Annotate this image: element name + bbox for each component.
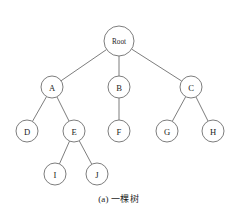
- node-label-a: A: [49, 83, 56, 93]
- tree-node-g[interactable]: G: [156, 120, 178, 142]
- node-label-i: I: [54, 170, 57, 180]
- tree-edge-root-a: [61, 49, 107, 80]
- node-label-f: F: [117, 127, 122, 137]
- tree-node-a[interactable]: A: [41, 76, 63, 98]
- tree-figure: RootABCDEFGHIJ (a) 一棵树: [0, 0, 237, 214]
- tree-edge-c-h: [196, 97, 208, 121]
- node-label-g: G: [164, 127, 170, 137]
- tree-node-j[interactable]: J: [86, 163, 108, 185]
- tree-edge-e-j: [79, 141, 92, 165]
- node-label-d: D: [24, 127, 30, 137]
- node-label-c: C: [188, 83, 194, 93]
- tree-node-e[interactable]: E: [63, 120, 85, 142]
- tree-node-f[interactable]: F: [108, 120, 130, 142]
- tree-node-root[interactable]: Root: [104, 26, 134, 56]
- tree-node-i[interactable]: I: [44, 163, 66, 185]
- tree-edge-e-i: [59, 141, 69, 164]
- tree-node-h[interactable]: H: [202, 120, 224, 142]
- node-label-root: Root: [112, 38, 126, 46]
- nodes-group: RootABCDEFGHIJ: [16, 26, 224, 185]
- tree-node-c[interactable]: C: [180, 76, 202, 98]
- tree-edge-a-e: [57, 97, 69, 121]
- tree-edge-a-d: [32, 97, 46, 122]
- tree-node-b[interactable]: B: [108, 76, 130, 98]
- tree-diagram: RootABCDEFGHIJ: [0, 0, 237, 214]
- tree-node-d[interactable]: D: [16, 120, 38, 142]
- node-label-b: B: [116, 83, 122, 93]
- edges-group: [32, 49, 208, 164]
- figure-caption: (a) 一棵树: [0, 192, 237, 205]
- node-label-e: E: [71, 127, 76, 137]
- tree-edge-root-c: [132, 49, 182, 81]
- node-label-h: H: [210, 127, 216, 137]
- tree-edge-c-g: [172, 97, 185, 122]
